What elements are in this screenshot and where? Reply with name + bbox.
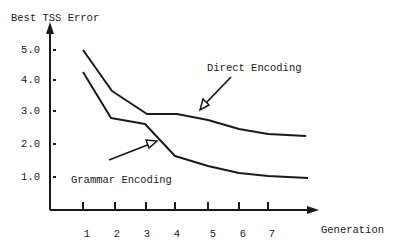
- x-tick-label: 6: [236, 229, 250, 240]
- x-tick-label: 7: [265, 229, 279, 240]
- x-tick-marks: [83, 202, 268, 210]
- annotation-grammar-encoding: Grammar Encoding: [71, 175, 172, 186]
- y-tick-label: 1.0: [6, 172, 40, 183]
- x-tick-label: 5: [206, 229, 220, 240]
- x-tick-label: 4: [170, 229, 184, 240]
- direct-encoding-arrow-icon: [200, 77, 231, 110]
- series-grammar-encoding: [83, 72, 308, 178]
- chart-plot: [0, 0, 403, 247]
- y-tick-label: 5.0: [6, 45, 40, 56]
- y-tick-label: 4.0: [6, 75, 40, 86]
- y-tick-label: 3.0: [6, 106, 40, 117]
- annotation-direct-encoding: Direct Encoding: [207, 63, 302, 74]
- x-axis-label: Generation: [321, 225, 384, 236]
- grammar-encoding-arrow-icon: [109, 140, 157, 160]
- x-tick-label: 1: [80, 229, 94, 240]
- y-axis-label: Best TSS Error: [11, 13, 99, 24]
- y-tick-marks: [53, 50, 56, 177]
- x-axis-arrow-icon: [307, 206, 319, 214]
- x-tick-label: 3: [140, 229, 154, 240]
- x-tick-label: 2: [110, 229, 124, 240]
- y-tick-label: 2.0: [6, 139, 40, 150]
